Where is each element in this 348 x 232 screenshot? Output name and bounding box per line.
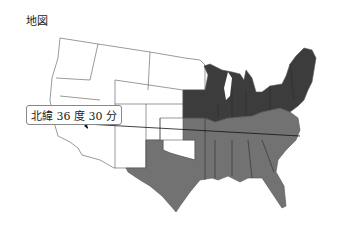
- map-figure: 地図 北緯 36 度 30 分: [0, 0, 348, 232]
- latitude-label: 北緯 36 度 30 分: [26, 105, 122, 125]
